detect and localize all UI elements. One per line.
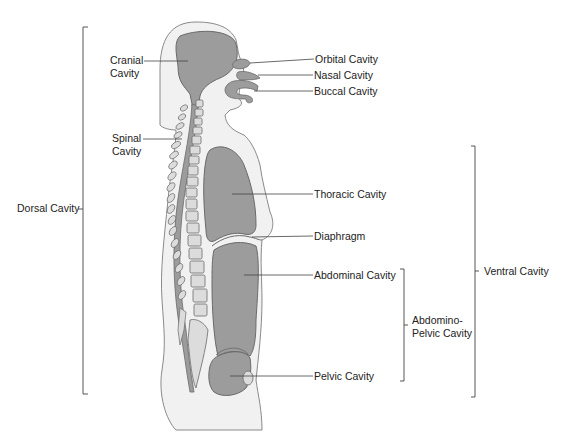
abdominal-cavity-label: Abdominal Cavity xyxy=(314,269,396,282)
diaphragm-label: Diaphragm xyxy=(314,230,365,243)
ventral-bracket xyxy=(471,146,479,397)
nasal-cavity-label: Nasal Cavity xyxy=(314,69,373,82)
orbital-cavity-label: Orbital Cavity xyxy=(315,53,378,66)
ventral-cavity-label: Ventral Cavity xyxy=(484,265,549,278)
dorsal-cavity-label: Dorsal Cavity xyxy=(17,202,79,215)
body-cavities-figure xyxy=(0,0,566,445)
cranial-cavity-label: Cranial Cavity xyxy=(110,54,143,79)
nasal-cavity-shape xyxy=(237,71,260,80)
bladder-shape xyxy=(243,371,253,385)
buccal-cavity-label: Buccal Cavity xyxy=(314,85,378,98)
spinal-cavity-label: Spinal Cavity xyxy=(112,132,141,157)
abdominopelvic-cavity-label: Abdomino- Pelvic Cavity xyxy=(412,314,472,339)
orbital-cavity-shape xyxy=(233,59,250,69)
dorsal-bracket xyxy=(78,27,88,394)
pelvic-cavity-label: Pelvic Cavity xyxy=(314,370,374,383)
abdominopelvic-bracket xyxy=(400,269,408,381)
thoracic-cavity-label: Thoracic Cavity xyxy=(314,188,386,201)
abdominal-cavity-shape xyxy=(212,243,258,356)
